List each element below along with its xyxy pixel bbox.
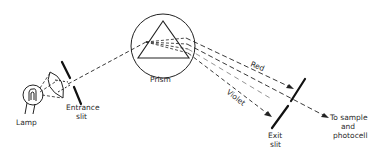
entrance-slit-label-2: slit: [76, 112, 87, 121]
lens-icon: [48, 72, 70, 98]
prism-internal-rays: [146, 38, 188, 53]
entrance-slit-icon: [62, 62, 81, 104]
dispersed-rays: [186, 38, 325, 116]
red-label: Red: [249, 60, 266, 74]
exit-slit-label-2: slit: [270, 140, 281, 149]
prism-label: Prism: [150, 75, 171, 84]
output-label-1: To sample: [329, 113, 368, 122]
prism-housing: [131, 14, 195, 78]
diagram-svg: Lamp Entrance slit Prism Red Violet Exit…: [0, 0, 380, 154]
lamp-label: Lamp: [16, 118, 37, 127]
entrance-slit-label: Entrance: [66, 103, 100, 112]
prism-icon: [138, 21, 189, 58]
violet-label: Violet: [225, 87, 247, 107]
input-beam: [68, 42, 146, 84]
spectrophotometer-diagram: Lamp Entrance slit Prism Red Violet Exit…: [0, 0, 380, 154]
output-label-2: and: [341, 122, 355, 131]
exit-slit-label: Exit: [268, 131, 282, 140]
red-ray: [186, 38, 290, 87]
lamp-icon: [23, 85, 43, 114]
output-label-3: photocell: [333, 131, 368, 140]
